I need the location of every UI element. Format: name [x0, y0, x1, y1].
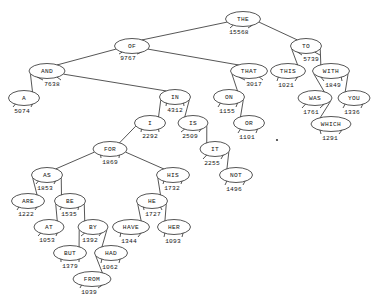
- node-label: OR: [245, 120, 253, 127]
- tree-node[interactable]: HAD: [95, 246, 128, 261]
- tree-edge: [126, 152, 164, 169]
- node-label: FOR: [104, 146, 116, 153]
- node-label: WITH: [323, 68, 339, 75]
- count-tick-left: [203, 155, 207, 159]
- tree-node[interactable]: ON: [214, 90, 245, 105]
- node-count: 1535: [61, 211, 77, 218]
- node-count: 1062: [102, 264, 118, 271]
- node-count: 1732: [164, 185, 180, 192]
- node-count: 1093: [165, 238, 181, 245]
- node-label: NOT: [230, 172, 242, 179]
- tree-node[interactable]: THAT: [231, 64, 268, 79]
- node-label: THE: [237, 16, 249, 23]
- tree-node[interactable]: WHICH: [311, 117, 351, 132]
- tree-node[interactable]: WAS: [298, 91, 332, 106]
- node-label: YOU: [348, 95, 360, 102]
- tree-edge: [119, 126, 135, 143]
- node-count: 1849: [325, 82, 341, 89]
- node-count: 5074: [14, 108, 30, 115]
- tree-node[interactable]: HIS: [157, 168, 190, 183]
- node-count: 2509: [182, 133, 198, 140]
- node-label: THIS: [280, 68, 296, 75]
- node-count: 1392: [82, 237, 98, 244]
- tree-node[interactable]: TO: [291, 39, 322, 54]
- node-count: 9767: [120, 55, 136, 62]
- tree-edge: [159, 100, 161, 117]
- tree-edge: [345, 74, 348, 92]
- node-label: HER: [168, 224, 180, 231]
- node-label: I: [148, 120, 152, 127]
- tree-edge: [30, 74, 32, 92]
- tree-node[interactable]: AT: [34, 220, 64, 235]
- count-tick-left: [238, 129, 240, 133]
- tree-node[interactable]: BE: [55, 194, 86, 209]
- tree-node[interactable]: I: [135, 116, 166, 131]
- tree-node[interactable]: A: [9, 91, 40, 106]
- node-layer: THE15568OF9767TO5739AND7638THAT3017THIS1…: [9, 12, 371, 296]
- tree-node[interactable]: ARE: [12, 194, 45, 209]
- tree-node[interactable]: FOR: [93, 142, 127, 157]
- tree-node[interactable]: NOT: [220, 168, 253, 183]
- node-label: AS: [43, 172, 51, 179]
- tree-node[interactable]: OR: [234, 116, 265, 131]
- artifact-layer: [276, 139, 278, 141]
- tree-node[interactable]: IN: [160, 90, 191, 105]
- tree-node[interactable]: BUT: [54, 246, 87, 261]
- node-count: 1222: [18, 211, 34, 218]
- node-count: 1853: [37, 185, 53, 192]
- tree-node[interactable]: THE: [226, 12, 261, 27]
- tree-node[interactable]: FROM: [73, 272, 111, 287]
- node-count: 1496: [226, 186, 242, 193]
- tree-node[interactable]: HER: [158, 220, 191, 235]
- node-label: BY: [89, 224, 97, 231]
- node-count: 2255: [204, 160, 220, 167]
- node-count: 1101: [239, 134, 255, 141]
- tree-node[interactable]: WITH: [313, 64, 350, 79]
- node-label: BUT: [64, 250, 76, 257]
- node-label: HE: [148, 198, 156, 205]
- tree-edge: [142, 22, 227, 40]
- tree-node[interactable]: IT: [200, 142, 230, 157]
- tree-node[interactable]: HE: [137, 194, 168, 209]
- node-count: 1379: [62, 263, 78, 270]
- tree-edge: [56, 152, 95, 169]
- count-tick-left: [302, 104, 306, 108]
- count-tick-left: [343, 104, 345, 108]
- node-count: 3017: [246, 81, 262, 88]
- tree-node[interactable]: YOU: [338, 91, 370, 106]
- tree-node[interactable]: IS: [178, 116, 208, 131]
- node-count: 1039: [81, 289, 97, 296]
- tree-edge: [227, 152, 229, 169]
- tree-node[interactable]: OF: [115, 39, 150, 54]
- tree-node[interactable]: AND: [29, 64, 65, 79]
- node-count: 1336: [344, 109, 360, 116]
- node-count: 1727: [145, 211, 161, 218]
- tree-edge: [259, 22, 297, 40]
- node-count: 1344: [121, 238, 137, 245]
- tree-node[interactable]: AS: [32, 168, 63, 183]
- tree-edge: [165, 204, 166, 221]
- node-label: ON: [225, 94, 233, 101]
- node-count: 15568: [229, 29, 249, 36]
- binary-search-tree-figure: THE15568OF9767TO5739AND7638THAT3017THIS1…: [0, 0, 373, 306]
- node-count: 2292: [142, 133, 158, 140]
- node-label: A: [22, 95, 26, 102]
- tree-node[interactable]: THIS: [271, 64, 306, 79]
- node-count: 1155: [219, 108, 235, 115]
- tree-edge: [320, 49, 321, 65]
- node-label: IT: [211, 146, 219, 153]
- node-label: ARE: [22, 198, 34, 205]
- node-count: 1291: [322, 135, 338, 142]
- tree-canvas: THE15568OF9767TO5739AND7638THAT3017THIS1…: [0, 0, 373, 306]
- node-label: BE: [66, 198, 74, 205]
- tree-node[interactable]: BY: [78, 220, 108, 235]
- tree-edge: [138, 204, 141, 221]
- node-count: 1869: [102, 159, 118, 166]
- count-tick-left: [218, 103, 220, 107]
- node-count: 1761: [303, 109, 319, 116]
- node-label: FROM: [84, 276, 100, 283]
- node-label: IS: [189, 120, 197, 127]
- tree-node[interactable]: HAVE: [113, 220, 150, 235]
- node-count: 5739: [303, 56, 319, 63]
- node-label: WAS: [309, 95, 321, 102]
